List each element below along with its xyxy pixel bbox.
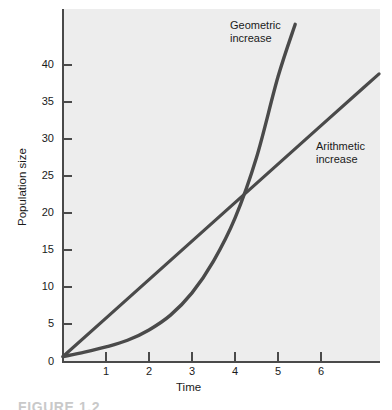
figure-container: 0 5 10 15 20 25 30 35 40 1 2 3 4 5 6 Pop… (0, 0, 392, 410)
geometric-increase-curve (63, 24, 295, 356)
annotation-arithmetic-increase: Arithmetic increase (316, 140, 365, 166)
figure-caption: FIGURE 1.2 (18, 399, 100, 410)
annotation-geometric-line2: increase (230, 32, 281, 45)
series-curves (0, 0, 392, 410)
annotation-geometric-increase: Geometric increase (230, 19, 281, 45)
annotation-geometric-line1: Geometric (230, 19, 281, 32)
annotation-arithmetic-line2: increase (316, 153, 365, 166)
annotation-arithmetic-line1: Arithmetic (316, 140, 365, 153)
arithmetic-increase-line (63, 74, 379, 357)
